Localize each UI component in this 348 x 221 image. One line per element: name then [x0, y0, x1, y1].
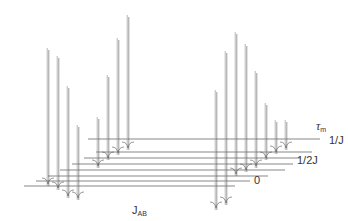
stack-label-half-j: 1/2J	[297, 155, 318, 166]
peak-left-multiplet	[72, 125, 84, 200]
peak-left-multiplet	[92, 117, 104, 168]
peak-left-multiplet	[42, 48, 54, 186]
x-axis-label-subscript: AB	[138, 210, 147, 217]
peak-left-multiplet	[112, 38, 124, 155]
peak-right-multiplet	[240, 44, 252, 172]
peak-left-multiplet	[122, 15, 134, 150]
stack-label-zero: 0	[254, 175, 260, 186]
tau-m-label: τm	[316, 120, 326, 133]
peak-right-multiplet	[220, 51, 232, 205]
stacked-spectra-plot	[0, 0, 348, 221]
stack-label-1-over-j: 1/J	[329, 135, 344, 146]
peak-right-multiplet	[280, 120, 292, 150]
peak-right-multiplet	[250, 71, 262, 168]
x-axis-label-jab: JAB	[132, 205, 147, 217]
peak-right-multiplet	[230, 32, 242, 176]
peak-right-multiplet	[270, 120, 282, 154]
peak-right-multiplet	[210, 90, 222, 210]
peak-right-multiplet	[260, 103, 272, 160]
tau-subscript: m	[320, 126, 326, 133]
